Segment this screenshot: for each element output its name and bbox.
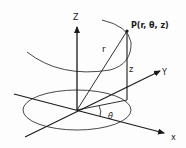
projection-line (77, 100, 127, 110)
point-p (125, 29, 128, 32)
cylindrical-coordinates-diagram: Z P(r, θ, z) r z Y x θ (0, 0, 186, 148)
point-label: P(r, θ, z) (131, 21, 169, 30)
z-axis-label: Z (73, 13, 79, 22)
height-label: z (129, 65, 133, 74)
y-axis-label: Y (161, 68, 167, 77)
diagram-svg: Z P(r, θ, z) r z Y x θ (0, 0, 186, 148)
radius-line (77, 31, 127, 110)
radius-label: r (102, 44, 106, 54)
x-axis (14, 94, 164, 133)
theta-arc (99, 106, 101, 116)
x-axis-label: x (171, 133, 176, 142)
top-arc (27, 20, 131, 72)
theta-label: θ (108, 112, 113, 121)
